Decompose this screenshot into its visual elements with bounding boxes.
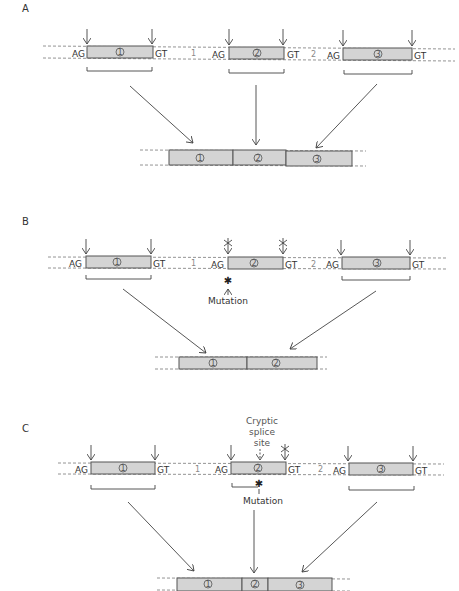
exon-number: 3 bbox=[375, 50, 380, 59]
donor-site: GT bbox=[415, 466, 428, 476]
exon-number: 1 bbox=[120, 464, 125, 473]
exon-bracket bbox=[349, 486, 414, 490]
acceptor-site: AG bbox=[212, 50, 225, 60]
intron-label: 2 bbox=[318, 465, 323, 474]
splice-site-arrows bbox=[87, 29, 412, 46]
acceptor-site: AG bbox=[75, 465, 88, 475]
splice-arrow bbox=[302, 502, 377, 572]
exon-number: 1 bbox=[197, 154, 202, 163]
mutation-label: Mutation bbox=[208, 296, 248, 306]
intron-label: 2 bbox=[311, 260, 316, 269]
blocked-splice-site-icon bbox=[281, 444, 289, 460]
donor-site: GT bbox=[285, 260, 298, 270]
panel-label: C bbox=[22, 423, 29, 434]
donor-site: GT bbox=[414, 51, 427, 61]
mutation-label: Mutation bbox=[243, 496, 283, 506]
donor-site: GT bbox=[155, 49, 168, 59]
donor-site: GT bbox=[153, 259, 166, 269]
exon-number: 2 bbox=[254, 49, 259, 58]
blocked-splice-site-icon bbox=[224, 238, 287, 254]
splice-arrow bbox=[130, 86, 193, 143]
intron-label: 1 bbox=[191, 259, 196, 268]
exon-bracket bbox=[342, 276, 410, 280]
exon-bracket bbox=[87, 67, 152, 71]
splice-arrow bbox=[290, 291, 376, 349]
acceptor-site: AG bbox=[215, 465, 228, 475]
intron-label: 1 bbox=[195, 465, 200, 474]
exon-number: 3 bbox=[374, 259, 379, 268]
splice-arrow bbox=[316, 84, 377, 148]
exon-number: 1 bbox=[114, 258, 119, 267]
splice-arrow bbox=[123, 289, 206, 353]
exon-number: 1 bbox=[210, 359, 215, 368]
spliced-mrna: 1 2 3 bbox=[140, 150, 366, 166]
donor-site: GT bbox=[288, 465, 301, 475]
panel-a: A 1 AG GT 1 2 AG GT 2 3 AG GT bbox=[22, 3, 455, 166]
cryptic-site-label: Cryptic bbox=[246, 416, 278, 426]
exon-number: 2 bbox=[255, 464, 260, 473]
splice-site-arrows bbox=[86, 239, 410, 255]
donor-site: GT bbox=[287, 50, 300, 60]
exon-number: 1 bbox=[205, 580, 210, 589]
spliced-mrna: 1 2 bbox=[155, 357, 327, 369]
exon-number: 2 bbox=[273, 359, 278, 368]
donor-site: GT bbox=[157, 465, 170, 475]
acceptor-site: AG bbox=[72, 49, 85, 59]
splice-arrow bbox=[128, 502, 194, 571]
acceptor-site: AG bbox=[333, 466, 346, 476]
intron-label: 2 bbox=[311, 50, 316, 59]
spliced-mrna: 1 2 3 bbox=[157, 578, 350, 591]
exon-bracket bbox=[91, 485, 155, 489]
panel-label: A bbox=[22, 3, 29, 14]
exon-number: 3 bbox=[297, 581, 302, 590]
exon-number: 2 bbox=[251, 259, 256, 268]
acceptor-site: AG bbox=[69, 259, 82, 269]
panel-c: C Cryptic splice site 1 AG GT 1 2 AG GT … bbox=[22, 416, 444, 591]
exon-number: 2 bbox=[255, 154, 260, 163]
panel-label: B bbox=[22, 216, 29, 227]
exon-bracket bbox=[229, 69, 284, 73]
acceptor-site: AG bbox=[326, 260, 339, 270]
exon-bracket bbox=[86, 275, 151, 279]
cryptic-site-label: site bbox=[254, 438, 271, 448]
exon-number: 1 bbox=[117, 48, 122, 57]
donor-site: GT bbox=[412, 260, 425, 270]
exon-bracket bbox=[344, 70, 412, 74]
exon-number: 3 bbox=[378, 465, 383, 474]
mutation-marker: ✱ Mutation bbox=[232, 478, 283, 506]
cryptic-site-label: splice bbox=[249, 427, 275, 437]
mutation-star-icon: ✱ bbox=[224, 275, 232, 286]
acceptor-site: AG bbox=[327, 51, 340, 61]
splicing-diagram: A 1 AG GT 1 2 AG GT 2 3 AG GT bbox=[0, 0, 459, 591]
splice-site-arrows bbox=[91, 445, 413, 461]
acceptor-site: AG bbox=[211, 260, 224, 270]
mutation-marker: ✱ Mutation bbox=[208, 275, 248, 306]
mutation-star-icon: ✱ bbox=[255, 478, 263, 489]
intron-label: 1 bbox=[191, 49, 196, 58]
exon-number: 3 bbox=[314, 155, 319, 164]
panel-b: B 1 AG GT 1 2 AG GT 2 3 AG GT bbox=[22, 216, 448, 369]
exon-number: 2 bbox=[252, 580, 257, 589]
